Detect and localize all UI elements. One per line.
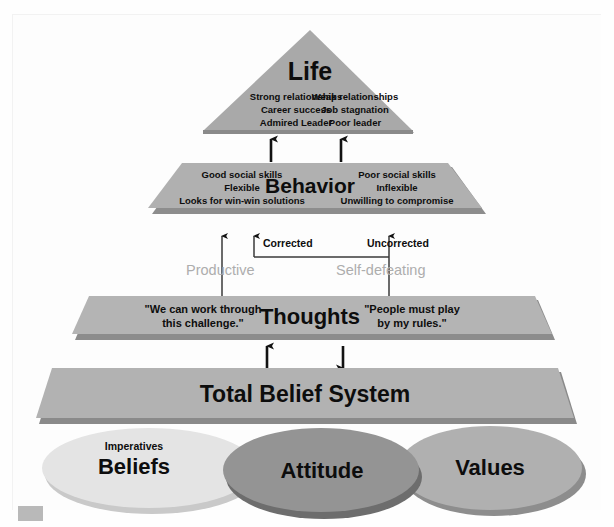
behavior-left-item-0: Good social skills [202, 169, 283, 180]
life-left-item-2: Admired Leader [260, 117, 333, 128]
beliefs-label: Beliefs [98, 454, 170, 479]
correction-connectors: Corrected Uncorrected Productive Self-de… [186, 236, 429, 297]
attitude-label: Attitude [280, 458, 363, 483]
corrected-label: Corrected [263, 237, 313, 249]
thoughts-level: Thoughts "We can work through this chall… [72, 296, 555, 340]
productive-label: Productive [186, 262, 255, 278]
belief-system-title: Total Belief System [200, 381, 410, 407]
thoughts-left-quote-line1: "We can work through [145, 303, 262, 315]
behavior-left-item-1: Flexible [224, 182, 259, 193]
self-defeating-label: Self-defeating [336, 262, 425, 278]
thoughts-left-quote-line2: this challenge." [162, 317, 244, 329]
behavior-level: Behavior Good social skills Flexible Loo… [148, 163, 486, 214]
thoughts-title: Thoughts [260, 304, 360, 329]
behavior-to-life-arrows [271, 139, 341, 162]
life-right-item-1: Job stagnation [321, 104, 389, 115]
life-right-item-0: Weak relationships [312, 91, 398, 102]
life-title: Life [288, 57, 333, 85]
life-triangle-base [203, 130, 413, 134]
beliefs-sublabel: Imperatives [105, 440, 164, 452]
belief-system-level: Total Belief System [36, 368, 577, 424]
belief-thoughts-arrows [267, 346, 343, 368]
behavior-right-item-2: Unwilling to compromise [341, 195, 454, 206]
life-right-item-2: Poor leader [329, 117, 382, 128]
foundation-group: Imperatives Beliefs Attitude Values [42, 426, 586, 519]
values-label: Values [455, 455, 525, 480]
behavior-left-item-2: Looks for win-win solutions [179, 195, 305, 206]
uncorrected-label: Uncorrected [367, 237, 429, 249]
behavior-right-item-0: Poor social skills [358, 169, 436, 180]
behavior-right-item-1: Inflexible [376, 182, 417, 193]
life-level: Life Strong relationships Career success… [203, 30, 414, 134]
belief-system-diagram: Life Strong relationships Career success… [0, 0, 614, 527]
thoughts-right-quote-line2: by my rules." [377, 317, 446, 329]
thoughts-right-quote-line1: "People must play [364, 303, 461, 315]
diagram-page: Life Strong relationships Career success… [0, 0, 614, 527]
corner-marker [18, 506, 43, 521]
